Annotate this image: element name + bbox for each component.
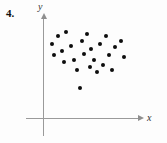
data-point — [60, 49, 64, 53]
data-point — [52, 53, 56, 57]
data-point — [78, 86, 82, 90]
data-point — [50, 42, 54, 46]
data-point — [62, 60, 66, 64]
data-point — [122, 55, 126, 59]
data-point — [75, 68, 79, 72]
data-point — [95, 70, 99, 74]
data-point — [92, 58, 96, 62]
data-point — [88, 65, 92, 69]
data-point — [69, 44, 73, 48]
data-point — [113, 45, 117, 49]
data-point — [72, 58, 76, 62]
data-point — [104, 34, 108, 38]
data-point — [89, 47, 93, 51]
data-point — [85, 32, 89, 36]
scatter-plot-figure: 4. y x — [0, 0, 167, 143]
data-point — [119, 39, 123, 43]
data-point — [82, 52, 86, 56]
data-point — [107, 53, 111, 57]
data-point — [110, 68, 114, 72]
data-point — [80, 39, 84, 43]
scatter-points-layer — [0, 0, 167, 143]
data-point — [98, 42, 102, 46]
data-point — [56, 34, 60, 38]
data-point — [64, 30, 68, 34]
data-point — [101, 63, 105, 67]
